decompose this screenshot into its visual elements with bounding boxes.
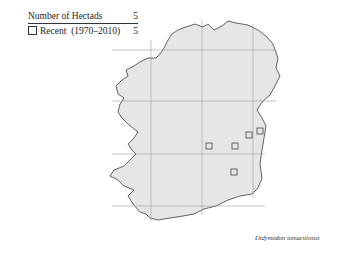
ireland-distribution-map xyxy=(0,0,341,258)
species-name: Didymodon tomaculosus xyxy=(255,234,319,241)
ireland-landmass xyxy=(110,21,280,220)
